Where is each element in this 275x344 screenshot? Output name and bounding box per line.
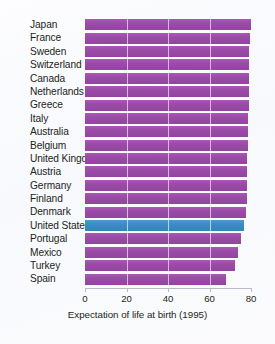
bar-track: [85, 274, 251, 285]
category-label: Germany: [30, 179, 71, 192]
category-label: United States: [30, 219, 90, 232]
bar-track: [85, 220, 251, 231]
chart-row: Australia: [0, 125, 275, 138]
bar-track: [85, 73, 251, 84]
category-label: Spain: [30, 272, 56, 285]
tick-mark: [127, 288, 128, 292]
tick-label: 20: [121, 293, 132, 304]
bar-track: [85, 247, 251, 258]
bar-track: [85, 180, 251, 191]
bar[interactable]: [85, 260, 235, 271]
bar[interactable]: [85, 100, 249, 111]
chart-row: United Kingdom: [0, 152, 275, 165]
bar[interactable]: [85, 180, 247, 191]
chart-row: Finland: [0, 192, 275, 205]
chart-row: Austria: [0, 165, 275, 178]
chart-row: Netherlands: [0, 85, 275, 98]
chart-row: United States: [0, 219, 275, 232]
category-label: Portugal: [30, 232, 67, 245]
tick-label: 80: [246, 293, 257, 304]
bar-track: [85, 113, 251, 124]
category-label: Austria: [30, 165, 61, 178]
chart-row: Italy: [0, 112, 275, 125]
category-label: Canada: [30, 72, 65, 85]
bar[interactable]: [85, 19, 251, 30]
bar-track: [85, 260, 251, 271]
category-label: Turkey: [30, 259, 60, 272]
bar[interactable]: [85, 59, 249, 70]
category-label: Denmark: [30, 205, 71, 218]
bar[interactable]: [85, 247, 238, 258]
chart-row: Portugal: [0, 232, 275, 245]
category-label: Greece: [30, 98, 63, 111]
bar-chart: JapanFranceSwedenSwitzerlandCanadaNether…: [0, 0, 275, 344]
tick-mark: [210, 288, 211, 292]
tick-mark: [85, 288, 86, 292]
bar[interactable]: [85, 33, 250, 44]
bar[interactable]: [85, 233, 241, 244]
bar-track: [85, 19, 251, 30]
chart-row: Belgium: [0, 139, 275, 152]
category-label: Sweden: [30, 45, 66, 58]
bar-track: [85, 140, 251, 151]
bar-track: [85, 193, 251, 204]
chart-row: Switzerland: [0, 58, 275, 71]
bar[interactable]: [85, 153, 247, 164]
bar[interactable]: [85, 220, 244, 231]
bar[interactable]: [85, 274, 226, 285]
bar-track: [85, 33, 251, 44]
chart-row: Sweden: [0, 45, 275, 58]
bar[interactable]: [85, 73, 249, 84]
bar-track: [85, 153, 251, 164]
category-label: Mexico: [30, 246, 62, 259]
category-label: Australia: [30, 125, 69, 138]
category-label: Netherlands: [30, 85, 84, 98]
tick-label: 0: [82, 293, 87, 304]
tick-mark: [168, 288, 169, 292]
bar[interactable]: [85, 46, 249, 57]
bar-track: [85, 207, 251, 218]
category-label: Finland: [30, 192, 63, 205]
tick-mark: [251, 288, 252, 292]
bar-track: [85, 233, 251, 244]
tick-label: 60: [204, 293, 215, 304]
bar-track: [85, 126, 251, 137]
bar[interactable]: [85, 193, 247, 204]
category-label: France: [30, 31, 61, 44]
bar[interactable]: [85, 126, 248, 137]
bar[interactable]: [85, 207, 246, 218]
chart-row: Germany: [0, 179, 275, 192]
category-label: Japan: [30, 18, 57, 31]
bar-track: [85, 59, 251, 70]
chart-row: Japan: [0, 18, 275, 31]
chart-row: Greece: [0, 98, 275, 111]
bar[interactable]: [85, 166, 247, 177]
category-label: Belgium: [30, 139, 66, 152]
plot-area: JapanFranceSwedenSwitzerlandCanadaNether…: [0, 18, 275, 290]
bar-track: [85, 100, 251, 111]
chart-row: Turkey: [0, 259, 275, 272]
category-label: Switzerland: [30, 58, 82, 71]
bar[interactable]: [85, 113, 248, 124]
bar-track: [85, 166, 251, 177]
chart-row: Denmark: [0, 205, 275, 218]
chart-row: France: [0, 31, 275, 44]
chart-row: Canada: [0, 72, 275, 85]
bar-track: [85, 46, 251, 57]
tick-label: 40: [163, 293, 174, 304]
category-label: Italy: [30, 112, 48, 125]
bar-track: [85, 86, 251, 97]
chart-row: Spain: [0, 272, 275, 285]
chart-row: Mexico: [0, 246, 275, 259]
x-axis-title: Expectation of life at birth (1995): [0, 309, 275, 320]
bar[interactable]: [85, 140, 248, 151]
x-axis: 020406080 Expectation of life at birth (…: [0, 288, 275, 344]
bar[interactable]: [85, 86, 249, 97]
